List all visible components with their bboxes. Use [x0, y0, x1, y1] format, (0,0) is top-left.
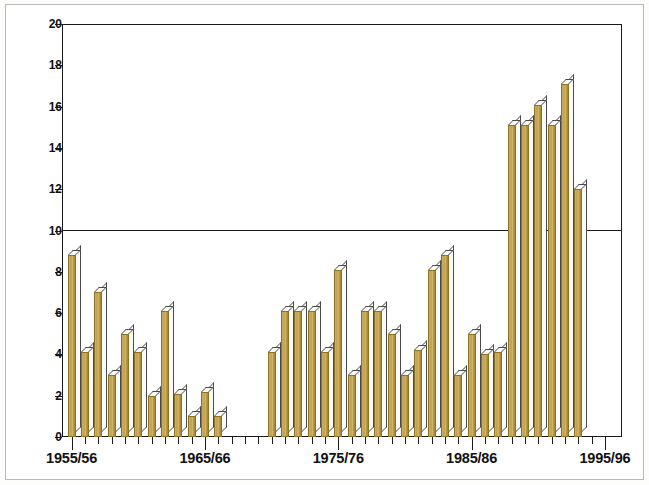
- bar: [428, 270, 436, 437]
- bar-front-face: [468, 334, 476, 437]
- bar: [374, 311, 382, 437]
- bar-front-face: [134, 352, 142, 437]
- y-tick-mark-18: [55, 65, 62, 66]
- bar-front-face: [441, 255, 449, 437]
- bar-front-face: [108, 375, 116, 437]
- bar-front-face: [508, 125, 516, 437]
- bar-side-face: [316, 301, 321, 432]
- bar-side-face: [556, 115, 561, 432]
- bar: [534, 105, 542, 437]
- bar-side-face: [89, 342, 94, 432]
- bar-front-face: [281, 311, 289, 437]
- y-tick-mark-0: [55, 437, 62, 438]
- bar-side-face: [409, 365, 414, 432]
- x-tick-label-1965-66: 1965/66: [179, 450, 230, 466]
- bar-side-face: [462, 365, 467, 432]
- bar-front-face: [81, 352, 89, 437]
- bar-front-face: [268, 352, 276, 437]
- x-tick-minor: [192, 437, 193, 444]
- bar: [574, 189, 582, 437]
- bar-front-face: [401, 375, 409, 437]
- bar-side-face: [422, 340, 427, 432]
- bar-front-face: [148, 396, 156, 437]
- x-tick-major: [72, 437, 73, 450]
- bar: [294, 311, 302, 437]
- x-tick-minor: [98, 437, 99, 444]
- x-tick-minor: [365, 437, 366, 444]
- y-tick-mark-4: [55, 354, 62, 355]
- bar: [188, 416, 196, 437]
- x-tick-minor: [378, 437, 379, 444]
- bar-front-face: [388, 334, 396, 437]
- y-tick-mark-6: [55, 313, 62, 314]
- x-tick-label-1985-86: 1985/86: [446, 450, 497, 466]
- bar-side-face: [129, 324, 134, 432]
- bar: [441, 255, 449, 437]
- x-tick-minor: [165, 437, 166, 444]
- bar-front-face: [494, 352, 502, 437]
- bar-side-face: [502, 342, 507, 432]
- bar: [148, 396, 156, 437]
- x-tick-major: [205, 437, 206, 450]
- x-tick-minor: [352, 437, 353, 444]
- x-tick-minor: [312, 437, 313, 444]
- x-tick-minor: [272, 437, 273, 444]
- x-tick-label-1995-96: 1995/96: [579, 450, 630, 466]
- bar-front-face: [121, 334, 129, 437]
- bar-front-face: [161, 311, 169, 437]
- y-tick-mark-2: [55, 396, 62, 397]
- x-tick-minor: [285, 437, 286, 444]
- bar-front-face: [361, 311, 369, 437]
- bar-front-face: [534, 105, 542, 437]
- bar: [214, 416, 222, 437]
- bar-side-face: [329, 342, 334, 432]
- bar-side-face: [569, 74, 574, 432]
- bar: [81, 352, 89, 437]
- bar: [401, 375, 409, 437]
- x-tick-minor: [218, 437, 219, 444]
- bar-front-face: [574, 189, 582, 437]
- bar: [281, 311, 289, 437]
- bar-front-face: [561, 84, 569, 437]
- bar: [388, 334, 396, 437]
- bar: [454, 375, 462, 437]
- bar-side-face: [436, 260, 441, 432]
- x-tick-minor: [498, 437, 499, 444]
- bar-side-face: [116, 365, 121, 432]
- x-tick-minor: [325, 437, 326, 444]
- bar: [548, 125, 556, 437]
- x-tick-major: [472, 437, 473, 450]
- x-tick-minor: [258, 437, 259, 444]
- x-tick-label-1955-56: 1955/56: [46, 450, 97, 466]
- x-tick-minor: [538, 437, 539, 444]
- y-tick-mark-8: [55, 272, 62, 273]
- y-tick-mark-14: [55, 148, 62, 149]
- bar-front-face: [94, 292, 102, 437]
- bar-front-face: [454, 375, 462, 437]
- bar: [508, 125, 516, 437]
- bar-front-face: [308, 311, 316, 437]
- bar-front-face: [294, 311, 302, 437]
- x-tick-minor: [552, 437, 553, 444]
- x-tick-minor: [392, 437, 393, 444]
- x-tick-minor: [578, 437, 579, 444]
- bar-front-face: [174, 394, 182, 437]
- x-tick-minor: [298, 437, 299, 444]
- x-tick-major: [605, 437, 606, 450]
- bar: [348, 375, 356, 437]
- x-tick-major: [338, 437, 339, 450]
- x-tick-minor: [445, 437, 446, 444]
- bar-front-face: [521, 125, 529, 437]
- bar-side-face: [382, 301, 387, 432]
- bar-side-face: [369, 301, 374, 432]
- bar: [414, 350, 422, 437]
- bar-front-face: [428, 270, 436, 437]
- bar: [94, 292, 102, 437]
- x-tick-minor: [245, 437, 246, 444]
- bar-front-face: [68, 255, 76, 437]
- bar: [174, 394, 182, 437]
- bar-front-face: [348, 375, 356, 437]
- bar: [161, 311, 169, 437]
- x-tick-minor: [232, 437, 233, 444]
- bar-side-face: [396, 324, 401, 432]
